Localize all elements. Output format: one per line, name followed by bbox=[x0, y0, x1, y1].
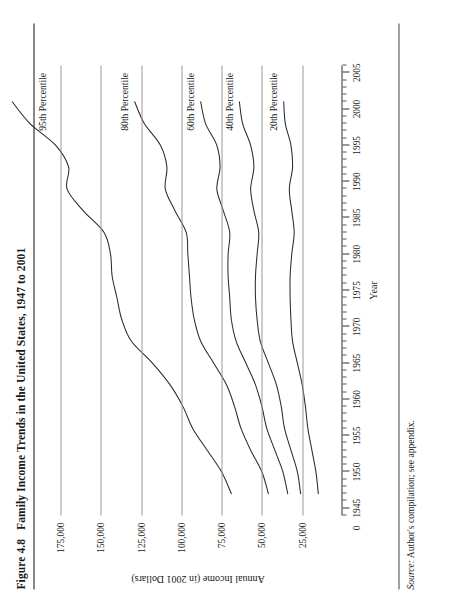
x-tick-minor bbox=[342, 274, 346, 275]
figure-number: Figure 4.8 bbox=[14, 538, 26, 589]
x-tick-minor bbox=[342, 296, 346, 297]
x-axis-tick-label: 1945 bbox=[351, 498, 361, 517]
x-tick-minor bbox=[342, 391, 346, 392]
title-divider bbox=[33, 23, 34, 589]
source-text: Author's compilation; see appendix. bbox=[404, 420, 415, 560]
gridline bbox=[100, 65, 101, 515]
y-axis-tick-label: 100,000 bbox=[176, 522, 186, 552]
x-tick-minor bbox=[342, 100, 346, 101]
x-tick-minor bbox=[342, 245, 346, 246]
x-tick-minor bbox=[342, 202, 346, 203]
x-tick-minor bbox=[342, 158, 346, 159]
x-tick-minor bbox=[342, 64, 346, 65]
x-tick-minor bbox=[342, 187, 346, 188]
x-tick-major bbox=[342, 144, 349, 145]
y-axis-tick-label: 175,000 bbox=[55, 522, 65, 552]
x-axis-tick-label: 1970 bbox=[351, 317, 361, 336]
x-axis-tick-label: 1995 bbox=[351, 136, 361, 155]
x-tick-minor bbox=[342, 340, 346, 341]
source-note: Source: Author's compilation; see append… bbox=[404, 420, 415, 590]
y-axis-title: Annual Income (in 2001 Dollars) bbox=[52, 571, 342, 587]
x-tick-minor bbox=[342, 478, 346, 479]
x-tick-major bbox=[342, 71, 349, 72]
x-axis-tick-label: 2005 bbox=[351, 63, 361, 82]
x-tick-minor bbox=[342, 267, 346, 268]
x-axis-tick-label: 1975 bbox=[351, 281, 361, 300]
x-tick-major bbox=[342, 470, 349, 471]
x-tick-minor bbox=[342, 427, 346, 428]
x-tick-major bbox=[342, 289, 349, 290]
x-tick-major bbox=[342, 108, 349, 109]
x-tick-minor bbox=[342, 463, 346, 464]
x-tick-minor bbox=[342, 282, 346, 283]
x-tick-minor bbox=[342, 347, 346, 348]
series-label: 95th Percentile bbox=[36, 72, 47, 130]
x-tick-minor bbox=[342, 173, 346, 174]
x-tick-minor bbox=[342, 318, 346, 319]
x-axis-ticks bbox=[342, 65, 351, 515]
series-label: 20th Percentile bbox=[267, 72, 278, 130]
x-tick-minor bbox=[342, 137, 346, 138]
x-axis-tick-label: 1955 bbox=[351, 426, 361, 445]
x-tick-minor bbox=[342, 449, 346, 450]
gridline bbox=[221, 65, 222, 515]
series-label: 40th Percentile bbox=[223, 72, 234, 130]
x-axis-tick-label: 1965 bbox=[351, 353, 361, 372]
x-tick-minor bbox=[342, 333, 346, 334]
figure-title-text: Family Income Trends in the United State… bbox=[14, 247, 26, 529]
x-tick-major bbox=[342, 253, 349, 254]
x-tick-minor bbox=[342, 499, 346, 500]
gridline bbox=[60, 65, 61, 515]
x-axis-tick-label: 1980 bbox=[351, 244, 361, 263]
y-axis-tick-label: 125,000 bbox=[136, 522, 146, 552]
x-tick-minor bbox=[342, 441, 346, 442]
x-tick-major bbox=[342, 507, 349, 508]
y-axis-tick-label: 75,000 bbox=[216, 522, 226, 548]
x-tick-major bbox=[342, 362, 349, 363]
x-tick-minor bbox=[342, 151, 346, 152]
x-tick-minor bbox=[342, 93, 346, 94]
x-tick-minor bbox=[342, 195, 346, 196]
x-tick-minor bbox=[342, 238, 346, 239]
x-tick-minor bbox=[342, 166, 346, 167]
x-tick-minor bbox=[342, 122, 346, 123]
x-axis-tick-labels: 1945195019551960196519701975198019851990… bbox=[351, 65, 365, 515]
x-tick-minor bbox=[342, 514, 346, 515]
y-axis-tick-label: 50,000 bbox=[256, 522, 266, 548]
series-curves bbox=[52, 65, 342, 515]
page-title: Figure 4.8Family Income Trends in the Un… bbox=[14, 23, 26, 589]
x-tick-minor bbox=[342, 376, 346, 377]
series-line bbox=[134, 101, 268, 493]
source-divider bbox=[398, 23, 399, 589]
x-axis-tick-label: 1990 bbox=[351, 172, 361, 191]
series-line bbox=[12, 101, 231, 493]
gridline bbox=[261, 65, 262, 515]
x-tick-minor bbox=[342, 456, 346, 457]
x-tick-minor bbox=[342, 420, 346, 421]
source-label: Source: bbox=[404, 560, 415, 589]
x-axis-tick-label: 1950 bbox=[351, 462, 361, 481]
gridline bbox=[181, 65, 182, 515]
y-axis-zero-label: 0 bbox=[351, 525, 361, 530]
figure-container: Figure 4.8Family Income Trends in the Un… bbox=[0, 0, 451, 611]
x-axis-title: Year bbox=[367, 65, 378, 515]
x-tick-minor bbox=[342, 260, 346, 261]
x-tick-major bbox=[342, 398, 349, 399]
figure-title-block: Figure 4.8Family Income Trends in the Un… bbox=[14, 23, 26, 589]
x-tick-major bbox=[342, 180, 349, 181]
gridline bbox=[141, 65, 142, 515]
gridline bbox=[302, 65, 303, 515]
x-tick-minor bbox=[342, 383, 346, 384]
x-tick-minor bbox=[342, 485, 346, 486]
x-tick-minor bbox=[342, 492, 346, 493]
x-tick-minor bbox=[342, 129, 346, 130]
x-tick-minor bbox=[342, 79, 346, 80]
series-line bbox=[283, 101, 318, 493]
x-tick-major bbox=[342, 325, 349, 326]
x-tick-minor bbox=[342, 304, 346, 305]
x-tick-minor bbox=[342, 86, 346, 87]
x-tick-minor bbox=[342, 405, 346, 406]
x-tick-major bbox=[342, 434, 349, 435]
series-line bbox=[239, 101, 300, 493]
x-tick-minor bbox=[342, 311, 346, 312]
